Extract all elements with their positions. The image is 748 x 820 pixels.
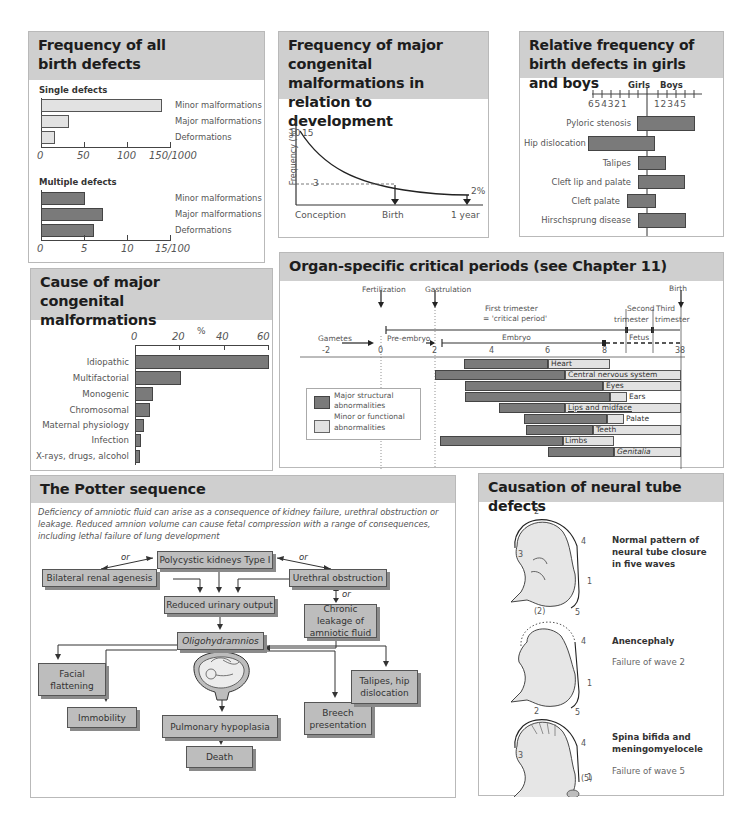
fetus-anencephaly: (2) 4 1 5 bbox=[511, 607, 592, 717]
node-bilateral-renal-agenesis: Bilateral renal agenesis bbox=[42, 569, 157, 587]
bar-multiple-deformations bbox=[41, 224, 94, 237]
label-limbs: Limbs bbox=[565, 436, 587, 445]
label-pyloric-stenosis: Pyloric stenosis bbox=[566, 118, 631, 128]
bar-cns-major bbox=[435, 370, 565, 380]
tick-mark bbox=[127, 235, 128, 240]
legend-major-2: abnormalities bbox=[334, 401, 385, 410]
legend-major-1: Major structural bbox=[334, 391, 393, 400]
label-minor: Minor malformations bbox=[175, 193, 262, 203]
embryo-label: Embryo bbox=[502, 333, 531, 342]
label-major: Major malformations bbox=[175, 209, 262, 219]
tick-mark bbox=[179, 345, 180, 350]
bar-xrays-drugs-alcohol bbox=[135, 450, 140, 463]
label-hirschsprung: Hirschsprung disease bbox=[541, 215, 631, 225]
label-multifactorial: Multifactorial bbox=[73, 373, 129, 383]
bar-talipes bbox=[638, 156, 666, 170]
tick-label: 10 bbox=[121, 243, 134, 254]
bar-hirschsprung bbox=[638, 213, 686, 228]
node-talipes-hip-dislocation: Talipes, hip dislocation bbox=[351, 670, 418, 704]
axis-tick-38: 38 bbox=[675, 346, 685, 355]
case-anencephaly-heading: Anencephaly bbox=[612, 636, 712, 646]
bar-palate-major bbox=[524, 414, 607, 424]
tick-label: 0 bbox=[37, 150, 43, 161]
tick-label: 0 bbox=[131, 331, 137, 342]
svg-text:1: 1 bbox=[587, 679, 592, 688]
label-teeth: Teeth bbox=[596, 425, 616, 434]
bar-infection bbox=[135, 434, 141, 447]
first-trimester-label: First trimester bbox=[485, 304, 538, 313]
bar-teeth-major bbox=[526, 425, 593, 435]
bar-lips-major bbox=[499, 403, 565, 413]
bar-ears-minor bbox=[610, 392, 627, 402]
axis-tick-8: 8 bbox=[602, 346, 607, 355]
bar-multiple-minor bbox=[41, 192, 85, 205]
panel-title: Frequency of major congenital malformati… bbox=[279, 32, 488, 99]
tick-mark bbox=[84, 235, 85, 240]
bar-single-major bbox=[41, 115, 69, 128]
tick-label: 40 bbox=[216, 331, 229, 342]
x-tick-birth: Birth bbox=[382, 210, 404, 220]
panel-neural-tube-defects: Causation of neural tube defects 2 4 3 1… bbox=[478, 473, 724, 796]
panel-title: Cause of major congenital malformations bbox=[31, 269, 272, 320]
svg-text:1: 1 bbox=[587, 577, 592, 586]
label-infection: Infection bbox=[92, 435, 129, 445]
label-eyes: Eyes bbox=[606, 381, 624, 390]
svg-text:5: 5 bbox=[575, 708, 580, 717]
cause-axis-x bbox=[135, 345, 269, 346]
node-pulmonary-hypoplasia: Pulmonary hypoplasia bbox=[162, 715, 278, 738]
case-normal-heading: Normal pattern of neural tube closure in… bbox=[612, 534, 712, 570]
bar-multifactorial bbox=[135, 371, 181, 385]
node-immobility: Immobility bbox=[67, 707, 137, 728]
tick-label: 5 bbox=[81, 243, 87, 254]
node-breech-presentation: Breech presentation bbox=[304, 702, 372, 735]
svg-text:(2): (2) bbox=[534, 607, 545, 616]
panel-title: Causation of neural tube defects bbox=[479, 474, 723, 502]
or-label-leakage: or bbox=[342, 589, 351, 599]
legend: Major structural abnormalities Minor or … bbox=[306, 388, 421, 440]
label-monogenic: Monogenic bbox=[82, 389, 129, 399]
x-tick-conception: Conception bbox=[295, 210, 346, 220]
label-major: Major malformations bbox=[175, 116, 262, 126]
multiple-defects-title: Multiple defects bbox=[39, 177, 117, 187]
tick-mark bbox=[268, 345, 269, 350]
svg-text:3: 3 bbox=[518, 550, 523, 559]
tick-label: 20 bbox=[172, 331, 185, 342]
bar-maternal-physiology bbox=[135, 419, 144, 432]
node-reduced-urinary-output: Reduced urinary output bbox=[164, 596, 275, 614]
tick-label: 50 bbox=[77, 150, 90, 161]
svg-text:5: 5 bbox=[575, 608, 580, 617]
tick-mark bbox=[224, 345, 225, 350]
node-urethral-obstruction: Urethral obstruction bbox=[289, 569, 387, 587]
case-anencephaly-note: Failure of wave 2 bbox=[612, 657, 685, 667]
tick-label: 100 bbox=[117, 150, 136, 161]
bar-hip-dislocation bbox=[588, 136, 655, 151]
node-oligohydramnios: Oligohydramnios bbox=[177, 632, 264, 650]
bar-multiple-major bbox=[41, 208, 103, 221]
label-cleft-lip-palate: Cleft lip and palate bbox=[552, 177, 631, 187]
second-trimester-label-2: trimester bbox=[614, 315, 649, 324]
label-lips-midface: Lips and midface bbox=[568, 403, 632, 412]
panel-birth-defects: Frequency of all birth defects Single de… bbox=[28, 31, 265, 263]
label-chromosomal: Chromosomal bbox=[70, 405, 129, 415]
panel-title: Frequency of all birth defects bbox=[29, 32, 264, 80]
end-label: 2% bbox=[471, 186, 485, 196]
node-facial-flattening: Facial flattening bbox=[38, 663, 106, 696]
bar-ears-major bbox=[465, 392, 610, 402]
tick-label: 0 bbox=[37, 243, 43, 254]
tick-label: 60 bbox=[257, 331, 270, 342]
legend-minor-1: Minor or functional bbox=[334, 412, 405, 421]
node-chronic-leakage: Chronic leakage of amniotic fluid bbox=[304, 604, 377, 638]
event-fertilization: Fertilization bbox=[362, 285, 406, 294]
svg-text:2: 2 bbox=[534, 707, 539, 716]
y-tick-3: 3 bbox=[313, 178, 319, 188]
event-birth: Birth bbox=[669, 284, 687, 293]
single-defects-title: Single defects bbox=[39, 85, 107, 95]
third-trimester-label-1: Third bbox=[656, 304, 675, 313]
tick-mark bbox=[170, 142, 171, 147]
bar-cleft-lip-palate bbox=[638, 175, 685, 189]
tick-mark bbox=[170, 235, 171, 240]
label-xrays-drugs-alcohol: X-rays, drugs, alcohol bbox=[36, 451, 129, 461]
bar-limbs-major bbox=[440, 436, 563, 446]
bar-chromosomal bbox=[135, 403, 150, 417]
gametes-label: Gametes bbox=[318, 334, 352, 343]
